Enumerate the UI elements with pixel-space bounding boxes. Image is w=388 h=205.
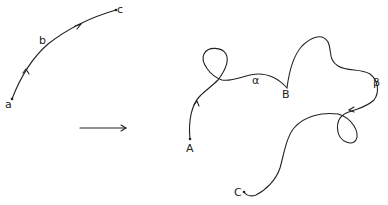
label-beta: β <box>373 77 380 88</box>
right-curve-path <box>189 37 377 196</box>
label-B: B <box>282 89 290 100</box>
point-C-dot <box>243 191 246 194</box>
left-arc-path <box>12 10 116 99</box>
label-a: a <box>5 99 12 110</box>
label-c: c <box>117 4 123 15</box>
label-A: A <box>186 143 194 154</box>
diagram-canvas <box>0 0 388 205</box>
label-alpha: α <box>252 75 259 86</box>
label-C: C <box>234 187 242 198</box>
point-A-dot <box>189 138 192 141</box>
label-b: b <box>39 35 46 46</box>
path-arrow-icon-1 <box>194 101 199 106</box>
